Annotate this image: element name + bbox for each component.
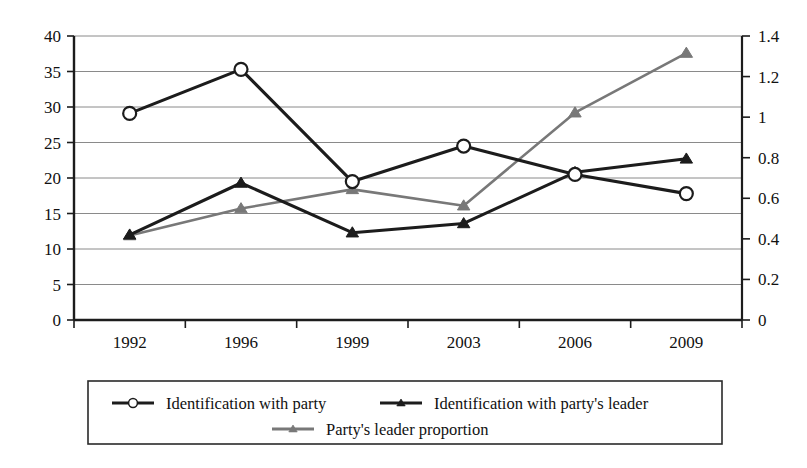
- x-axis-category-label: 1999: [335, 333, 369, 352]
- x-axis-ticks: [74, 320, 742, 328]
- right-axis-tick-label: 0: [758, 311, 767, 330]
- left-axis-tick-label: 35: [44, 63, 61, 82]
- x-axis-category-labels: 199219961999200320062009: [113, 333, 704, 352]
- right-axis-ticks: [742, 36, 750, 320]
- left-axis-tick-label: 25: [44, 134, 61, 153]
- gridlines-group: [74, 36, 742, 285]
- series-2: [123, 153, 692, 239]
- data-point-circle-marker: [235, 63, 248, 76]
- x-axis-category-label: 2003: [447, 333, 481, 352]
- chart-container: 0510152025303540 00.20.40.60.811.21.4 19…: [0, 0, 807, 468]
- left-axis-tick-label: 30: [44, 98, 61, 117]
- right-axis-tick-label: 0.2: [758, 270, 779, 289]
- x-axis-category-label: 1996: [224, 333, 258, 352]
- right-axis-tick-label: 1.4: [758, 27, 780, 46]
- left-axis-tick-label: 20: [44, 169, 61, 188]
- data-series-group: [123, 47, 693, 240]
- right-axis-tick-label: 1: [758, 108, 767, 127]
- right-axis-tick-labels: 00.20.40.60.811.21.4: [758, 27, 780, 330]
- left-axis-tick-label: 40: [44, 27, 61, 46]
- left-axis-tick-label: 10: [44, 240, 61, 259]
- data-point-circle-marker: [457, 140, 470, 153]
- right-axis-tick-label: 1.2: [758, 68, 779, 87]
- data-point-circle-marker: [346, 175, 359, 188]
- data-point-circle-marker: [569, 168, 582, 181]
- chart-legend: Identification with partyIdentification …: [88, 381, 722, 444]
- x-axis-category-label: 2009: [669, 333, 703, 352]
- data-point-triangle-marker: [235, 177, 247, 187]
- line-chart: 0510152025303540 00.20.40.60.811.21.4 19…: [0, 0, 807, 468]
- left-axis-tick-labels: 0510152025303540: [44, 27, 61, 330]
- left-axis-tick-label: 5: [53, 276, 62, 295]
- data-point-triangle-marker: [569, 107, 581, 117]
- series-1: [123, 63, 693, 200]
- legend-item-label: Party's leader proportion: [326, 420, 488, 439]
- legend-item-label: Identification with party: [166, 394, 327, 413]
- legend-item-label: Identification with party's leader: [434, 394, 649, 413]
- series-line: [130, 69, 687, 193]
- right-axis-tick-label: 0.4: [758, 230, 780, 249]
- left-axis-tick-label: 15: [44, 205, 61, 224]
- x-axis-category-label: 2006: [558, 333, 592, 352]
- right-axis-tick-label: 0.8: [758, 149, 779, 168]
- data-point-circle-marker: [129, 399, 138, 408]
- data-point-triangle-marker: [680, 47, 692, 57]
- data-point-circle-marker: [123, 107, 136, 120]
- x-axis-category-label: 1992: [113, 333, 147, 352]
- right-axis-tick-label: 0.6: [758, 189, 779, 208]
- series-3: [123, 47, 692, 240]
- data-point-circle-marker: [680, 187, 693, 200]
- left-axis-tick-label: 0: [53, 311, 62, 330]
